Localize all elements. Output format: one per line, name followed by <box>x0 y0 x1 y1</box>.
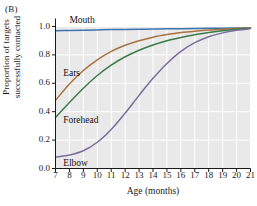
y-axis-label-line1: Proportion of targets <box>1 19 11 95</box>
y-tick-label: 0.6 <box>26 77 50 87</box>
figure-panel-b: (B) Proportion of targets successfully c… <box>0 0 256 206</box>
series-label-elbow: Elbow <box>63 158 88 168</box>
y-tick-label: 0.8 <box>26 49 50 59</box>
series-label-forehead: Forehead <box>63 115 98 125</box>
series-label-mouth: Mouth <box>69 15 94 25</box>
y-tick-label: 1.0 <box>26 21 50 31</box>
y-axis-label: Proportion of targets successfully conta… <box>1 0 25 122</box>
y-tick-label: 0.4 <box>26 106 50 116</box>
x-axis-tick-labels: 789101112131415161718192021 <box>0 170 256 184</box>
series-label-ears: Ears <box>63 68 80 78</box>
y-tick-label: 0.2 <box>26 134 50 144</box>
x-tick-label: 21 <box>243 170 257 180</box>
y-axis-label-line2: successfully contacted <box>12 16 22 98</box>
x-axis-label: Age (months) <box>55 186 251 196</box>
